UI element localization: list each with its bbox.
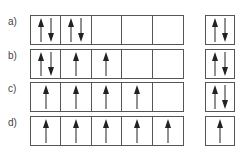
arrow-up-icon bbox=[217, 119, 223, 143]
arrow-up-icon bbox=[212, 85, 218, 109]
arrow-down-icon bbox=[222, 18, 228, 42]
arrow-down-icon bbox=[222, 52, 228, 76]
orbital-box bbox=[122, 16, 152, 44]
arrow-up-icon bbox=[73, 119, 79, 143]
orbital-box bbox=[122, 83, 152, 111]
orbital-row bbox=[30, 116, 184, 146]
orbital-box bbox=[61, 50, 91, 78]
orbital-box bbox=[31, 16, 61, 44]
orbital-box bbox=[31, 83, 61, 111]
orbital-row bbox=[30, 49, 184, 79]
arrow-down-icon bbox=[222, 85, 228, 109]
arrow-up-icon bbox=[212, 18, 218, 42]
row-label: b) bbox=[8, 50, 17, 61]
arrow-up-icon bbox=[73, 85, 79, 109]
orbital-box bbox=[92, 16, 122, 44]
side-orbital-box bbox=[205, 82, 235, 112]
side-orbital-box bbox=[205, 49, 235, 79]
orbital-box bbox=[153, 117, 183, 145]
orbital-box bbox=[122, 50, 152, 78]
arrow-down-icon bbox=[48, 18, 54, 42]
orbital-box bbox=[122, 117, 152, 145]
arrow-down-icon bbox=[78, 18, 84, 42]
orbital-row bbox=[30, 15, 184, 45]
orbital-box bbox=[153, 16, 183, 44]
orbital-row bbox=[30, 82, 184, 112]
side-orbital-box bbox=[205, 15, 235, 45]
orbital-box bbox=[153, 83, 183, 111]
arrow-up-icon bbox=[38, 18, 44, 42]
orbital-box bbox=[61, 117, 91, 145]
orbital-box bbox=[61, 83, 91, 111]
orbital-box bbox=[31, 117, 61, 145]
orbital-box bbox=[92, 117, 122, 145]
row-label: a) bbox=[8, 16, 17, 27]
arrow-up-icon bbox=[134, 119, 140, 143]
orbital-box bbox=[61, 16, 91, 44]
orbital-box bbox=[153, 50, 183, 78]
side-orbital-box bbox=[205, 116, 235, 146]
orbital-box bbox=[92, 50, 122, 78]
orbital-box bbox=[31, 50, 61, 78]
orbital-box bbox=[92, 83, 122, 111]
arrow-up-icon bbox=[165, 119, 171, 143]
arrow-up-icon bbox=[103, 85, 109, 109]
arrow-up-icon bbox=[103, 119, 109, 143]
arrow-up-icon bbox=[38, 52, 44, 76]
arrow-up-icon bbox=[43, 85, 49, 109]
arrow-up-icon bbox=[212, 52, 218, 76]
arrow-up-icon bbox=[68, 18, 74, 42]
row-label: c) bbox=[8, 83, 16, 94]
arrow-up-icon bbox=[43, 119, 49, 143]
arrow-down-icon bbox=[48, 52, 54, 76]
arrow-up-icon bbox=[73, 52, 79, 76]
row-label: d) bbox=[8, 117, 17, 128]
arrow-up-icon bbox=[134, 85, 140, 109]
arrow-up-icon bbox=[103, 52, 109, 76]
